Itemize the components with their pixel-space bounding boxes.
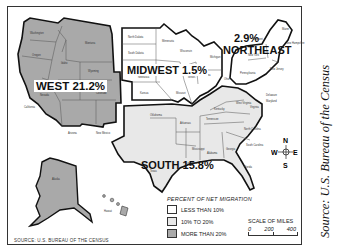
- legend-title: PERCENT OF NET MIGRATION: [167, 196, 252, 202]
- svg-text:Ohio: Ohio: [224, 77, 230, 81]
- svg-text:Maryland: Maryland: [266, 99, 277, 103]
- svg-text:Wisconsin: Wisconsin: [180, 49, 192, 53]
- svg-text:California: California: [24, 105, 36, 109]
- svg-text:Delaware: Delaware: [266, 93, 278, 97]
- svg-text:N: N: [283, 137, 288, 144]
- svg-text:North Dakota: North Dakota: [128, 35, 144, 39]
- svg-text:Nevada: Nevada: [40, 93, 49, 97]
- legend-label-high: MORE THAN 20%: [181, 231, 226, 237]
- svg-text:Idaho: Idaho: [61, 61, 68, 65]
- legend-label-low: LESS THAN 10%: [181, 207, 224, 213]
- northeast-region-label: NORTHEAST: [223, 44, 291, 56]
- svg-text:Michigan: Michigan: [210, 55, 221, 59]
- svg-text:Washington: Washington: [30, 31, 44, 35]
- west-region: Washington Montana Oregon Idaho Wyoming …: [18, 18, 121, 135]
- west-region-label: WEST 21.2%: [34, 80, 107, 92]
- svg-text:Arkansas: Arkansas: [180, 121, 192, 125]
- svg-text:Georgia: Georgia: [226, 147, 236, 151]
- south-region-label: SOUTH 15.8%: [141, 159, 214, 171]
- svg-text:Alabama: Alabama: [207, 151, 218, 155]
- legend-item-high: MORE THAN 20%: [167, 229, 252, 238]
- legend-swatch-high: [167, 229, 177, 238]
- alaska: Alaska: [30, 158, 92, 226]
- compass-icon: N W E S: [271, 136, 301, 170]
- source-caption: Source: U.S. Bureau of the Census: [318, 65, 333, 238]
- legend-label-mid: 10% TO 20%: [181, 219, 214, 225]
- scale-title: SCALE OF MILES: [248, 218, 298, 224]
- svg-text:Missouri: Missouri: [176, 91, 186, 95]
- svg-text:Kansas: Kansas: [140, 91, 149, 95]
- svg-text:Tennessee: Tennessee: [206, 117, 219, 121]
- svg-text:New Jersey: New Jersey: [270, 67, 284, 71]
- svg-text:Mississippi: Mississippi: [192, 147, 205, 151]
- midwest-region-label: MIDWEST 1.5%: [126, 64, 208, 76]
- svg-text:Pennsylvania: Pennsylvania: [240, 71, 256, 75]
- svg-text:South Dakota: South Dakota: [128, 51, 144, 55]
- scale-of-miles: SCALE OF MILES 0 200 400: [248, 218, 298, 236]
- legend-swatch-low: [167, 205, 177, 214]
- svg-text:Alaska: Alaska: [52, 177, 60, 181]
- legend-swatch-mid: [167, 217, 177, 226]
- svg-text:South Carolina: South Carolina: [246, 143, 264, 147]
- source-note: SOURCE: U.S. BUREAU OF THE CENSUS: [14, 238, 109, 243]
- svg-text:Montana: Montana: [85, 41, 96, 45]
- svg-text:Arizona: Arizona: [68, 131, 77, 135]
- svg-text:Maine: Maine: [282, 27, 290, 31]
- svg-text:New Mexico: New Mexico: [96, 131, 111, 135]
- compass-rose: N W E S: [271, 136, 301, 171]
- hawaii: Hawaii: [103, 195, 128, 216]
- svg-text:E: E: [293, 149, 298, 156]
- map-legend: PERCENT OF NET MIGRATION LESS THAN 10% 1…: [167, 196, 252, 241]
- legend-item-mid: 10% TO 20%: [167, 217, 252, 226]
- svg-text:Wyoming: Wyoming: [88, 69, 99, 73]
- svg-text:W: W: [271, 149, 278, 156]
- northeast-percent-label: 2.9%: [234, 32, 259, 44]
- svg-text:Hawaii: Hawaii: [104, 209, 112, 213]
- svg-text:Minnesota: Minnesota: [162, 39, 175, 43]
- svg-text:North Carolina: North Carolina: [244, 127, 261, 131]
- legend-item-low: LESS THAN 10%: [167, 205, 252, 214]
- svg-text:West Virginia: West Virginia: [236, 101, 252, 105]
- svg-text:Kentucky: Kentucky: [214, 107, 225, 111]
- svg-text:S: S: [283, 162, 288, 169]
- svg-text:Oklahoma: Oklahoma: [150, 113, 162, 117]
- svg-text:Oregon: Oregon: [32, 53, 41, 57]
- scale-bar: [248, 232, 298, 236]
- svg-text:Florida: Florida: [244, 165, 252, 169]
- svg-text:Virginia: Virginia: [250, 105, 259, 109]
